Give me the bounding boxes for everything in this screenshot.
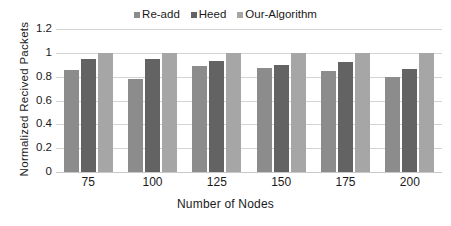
legend-label-our-algorithm: Our-Algorithm [245, 9, 317, 21]
legend-item-heed: Heed [191, 9, 227, 21]
bar [419, 53, 434, 172]
x-tick-label: 125 [185, 176, 249, 188]
bar [291, 53, 306, 172]
legend-swatch-heed [191, 12, 197, 18]
y-tick-label: 0.4 [6, 119, 52, 131]
bar-group [56, 29, 120, 172]
bar-group [313, 29, 377, 172]
bar [98, 53, 113, 172]
x-axis-title: Number of Nodes [0, 198, 451, 210]
x-tick-label: 150 [249, 176, 313, 188]
chart-legend: Re-add Heed Our-Algorithm [0, 9, 451, 21]
x-axis-ticks: 75100125150175200 [56, 176, 442, 188]
bar-chart: Re-add Heed Our-Algorithm Normalized Rec… [0, 0, 451, 226]
bar-group [120, 29, 184, 172]
bar [81, 59, 96, 172]
y-tick-label: 1 [6, 47, 52, 59]
bar-group [249, 29, 313, 172]
bar [128, 79, 143, 172]
bar [385, 77, 400, 172]
bar-group [185, 29, 249, 172]
bar [162, 53, 177, 172]
x-tick-label: 200 [378, 176, 442, 188]
bar [257, 68, 272, 172]
bar [338, 62, 353, 172]
y-axis-ticks: 00.20.40.60.811.2 [0, 0, 52, 226]
legend-swatch-our-algorithm [237, 12, 243, 18]
bar [274, 65, 289, 172]
bar [64, 70, 79, 172]
y-tick-label: 0.2 [6, 142, 52, 154]
y-tick-label: 0 [6, 166, 52, 178]
x-tick-label: 100 [120, 176, 184, 188]
bar [192, 66, 207, 172]
legend-swatch-re-add [134, 12, 140, 18]
legend-item-re-add: Re-add [134, 9, 180, 21]
y-tick-label: 0.6 [6, 95, 52, 107]
legend-label-re-add: Re-add [142, 9, 180, 21]
x-tick-label: 175 [313, 176, 377, 188]
bar [226, 53, 241, 172]
bar [209, 61, 224, 172]
bars-layer [56, 29, 442, 172]
bar [355, 53, 370, 172]
bar [145, 59, 160, 172]
legend-label-heed: Heed [199, 9, 227, 21]
legend-item-our-algorithm: Our-Algorithm [237, 9, 317, 21]
x-tick-label: 75 [56, 176, 120, 188]
y-tick-label: 1.2 [6, 23, 52, 35]
bar [402, 69, 417, 172]
bar-group [378, 29, 442, 172]
bar [321, 71, 336, 172]
y-tick-label: 0.8 [6, 71, 52, 83]
x-axis-line [56, 172, 442, 173]
